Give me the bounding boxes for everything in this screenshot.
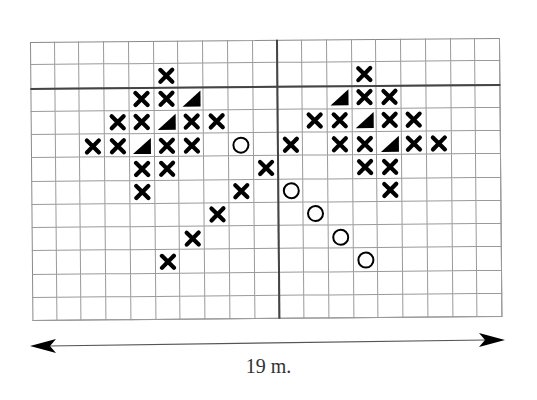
- grid-cell: [30, 88, 55, 111]
- grid-cell: [427, 155, 452, 178]
- grid-cell: [401, 39, 426, 62]
- grid-cell: [31, 135, 56, 158]
- cross-icon: [278, 133, 303, 156]
- grid-cell: [30, 42, 55, 65]
- grid-cell: [106, 297, 131, 320]
- grid-cell: [253, 63, 278, 86]
- grid-cell: [104, 64, 129, 87]
- grid-cell: [81, 204, 106, 227]
- cross-icon: [130, 157, 155, 180]
- grid-cell: [476, 177, 501, 200]
- grid-cell: [179, 64, 204, 87]
- grid-cell: [228, 87, 253, 110]
- grid-cell: [254, 203, 279, 226]
- cross-icon: [352, 62, 377, 85]
- triangle-icon: [327, 86, 352, 109]
- grid-cell: [129, 64, 154, 87]
- cross-icon: [154, 134, 179, 157]
- grid-cell: [229, 203, 254, 226]
- cross-icon: [352, 85, 377, 108]
- grid-cell: [80, 65, 105, 88]
- grid-cell: [104, 41, 129, 64]
- grid-cell: [453, 271, 478, 294]
- cross-icon: [179, 110, 204, 133]
- grid-cell: [278, 109, 303, 132]
- grid-cell: [204, 133, 229, 156]
- grid-cell: [427, 201, 452, 224]
- grid-cell: [31, 181, 56, 204]
- grid-cell: [403, 271, 428, 294]
- circle-icon: [304, 202, 329, 225]
- grid-cell: [475, 38, 500, 61]
- grid-cell: [476, 84, 501, 107]
- grid-cell: [354, 295, 379, 318]
- grid-cell: [477, 224, 502, 247]
- grid-cell: [56, 181, 81, 204]
- grid-cell: [402, 201, 427, 224]
- grid-cell: [30, 65, 55, 88]
- grid-cell: [328, 155, 353, 178]
- cross-icon: [378, 178, 403, 201]
- grid-cell: [154, 41, 179, 64]
- grid-cell: [427, 178, 452, 201]
- grid-cell: [304, 249, 329, 272]
- grid-cell: [451, 131, 476, 154]
- grid-cell: [401, 62, 426, 85]
- cross-icon: [105, 111, 130, 134]
- grid-cell: [477, 201, 502, 224]
- grid-cell: [327, 39, 352, 62]
- grid-cell: [353, 202, 378, 225]
- grid-cell: [178, 40, 203, 63]
- grid-cell: [303, 132, 328, 155]
- grid-cell: [55, 42, 80, 65]
- grid-cell: [453, 294, 478, 317]
- grid-cell: [180, 273, 205, 296]
- grid-cell: [131, 250, 156, 273]
- planting-grid: [30, 38, 502, 321]
- grid-cell: [57, 251, 82, 274]
- grid-cell: [32, 228, 57, 251]
- grid-cell: [129, 41, 154, 64]
- grid-cell: [329, 295, 354, 318]
- grid-cell: [379, 295, 404, 318]
- cross-icon: [427, 131, 452, 154]
- grid-cell: [426, 62, 451, 85]
- grid-cell: [378, 202, 403, 225]
- grid-cell: [377, 62, 402, 85]
- grid-cell: [253, 40, 278, 63]
- grid-cell: [354, 271, 379, 294]
- grid-cell: [428, 271, 453, 294]
- grid-cell: [279, 226, 304, 249]
- grid-cell: [81, 227, 106, 250]
- grid-cell: [451, 85, 476, 108]
- cross-icon: [352, 132, 377, 155]
- grid-cell: [376, 39, 401, 62]
- grid-cell: [32, 251, 57, 274]
- grid-cell: [80, 158, 105, 181]
- grid-cell: [180, 250, 205, 273]
- grid-cell: [279, 202, 304, 225]
- grid-cell: [80, 88, 105, 111]
- cross-icon: [303, 109, 328, 132]
- grid-cell: [428, 294, 453, 317]
- grid-cell: [280, 295, 305, 318]
- grid-cell: [303, 156, 328, 179]
- grid-cell: [279, 249, 304, 272]
- grid-cell: [403, 294, 428, 317]
- grid-cell: [302, 86, 327, 109]
- triangle-icon: [130, 134, 155, 157]
- grid-cell: [180, 203, 205, 226]
- grid-cell: [106, 250, 131, 273]
- grid-cell: [31, 112, 56, 135]
- grid-cell: [452, 201, 477, 224]
- grid-cell: [228, 110, 253, 133]
- grid-cell: [353, 225, 378, 248]
- grid-cell: [57, 274, 82, 297]
- grid-cell: [106, 227, 131, 250]
- grid-cell: [156, 273, 181, 296]
- grid-cell: [329, 248, 354, 271]
- grid-cell: [302, 39, 327, 62]
- grid-cell: [203, 40, 228, 63]
- cross-icon: [205, 203, 230, 226]
- grid-cell: [55, 88, 80, 111]
